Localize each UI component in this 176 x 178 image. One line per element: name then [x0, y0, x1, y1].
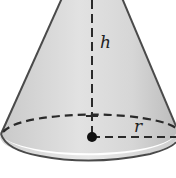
- radius-label: r: [134, 116, 143, 136]
- cone-diagram: h r: [0, 0, 176, 178]
- height-label: h: [100, 32, 111, 52]
- base-center-point: [87, 132, 97, 142]
